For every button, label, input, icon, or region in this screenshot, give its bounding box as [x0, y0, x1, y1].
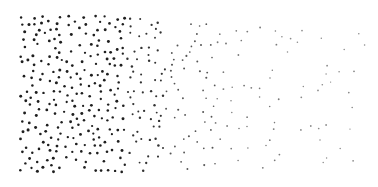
- stipple-dot: [59, 132, 61, 134]
- stipple-dot: [157, 144, 160, 147]
- stipple-dot: [23, 75, 26, 78]
- stipple-dot: [142, 170, 144, 172]
- stipple-dot: [36, 161, 39, 164]
- stipple-dot: [83, 119, 86, 122]
- stipple-dot: [211, 116, 213, 118]
- stipple-dot: [122, 53, 124, 55]
- stipple-dot: [189, 51, 191, 53]
- stipple-dot: [54, 112, 57, 115]
- stipple-dot: [123, 17, 126, 20]
- stipple-dot: [321, 37, 322, 38]
- stipple-dot: [75, 143, 78, 146]
- stipple-dot: [93, 115, 96, 118]
- stipple-dot: [222, 88, 224, 90]
- stipple-dot: [29, 103, 31, 105]
- stipple-dot: [128, 152, 130, 154]
- stipple-dot: [211, 57, 213, 59]
- stipple-dot: [140, 81, 142, 83]
- stipple-dot: [147, 54, 149, 56]
- stipple-dot: [24, 162, 26, 164]
- stipple-dot: [190, 23, 192, 25]
- stipple-dot: [275, 30, 277, 32]
- stipple-dot: [226, 125, 228, 127]
- stipple-dot: [75, 92, 77, 94]
- stipple-dot: [109, 63, 111, 65]
- stipple-dot: [91, 125, 93, 127]
- stipple-dot: [99, 21, 101, 23]
- stipple-dot: [214, 85, 216, 87]
- stipple-dot: [35, 114, 38, 117]
- stipple-dot: [99, 84, 102, 87]
- stipple-dot: [269, 139, 271, 141]
- stipple-dot: [203, 164, 205, 166]
- stipple-dot: [213, 105, 215, 107]
- stipple-dot: [114, 107, 116, 109]
- stipple-dot: [106, 73, 109, 76]
- stipple-dot: [199, 70, 201, 72]
- stipple-dot: [139, 116, 141, 118]
- stipple-dot: [116, 129, 119, 132]
- stipple-dot: [33, 63, 36, 66]
- stipple-dot: [352, 160, 354, 162]
- stipple-dot: [211, 147, 213, 149]
- stipple-dot: [122, 117, 125, 120]
- stipple-dot: [246, 31, 248, 33]
- stipple-dot: [136, 131, 138, 133]
- stipple-dot: [231, 112, 232, 113]
- stipple-dot: [113, 94, 115, 96]
- stipple-dot: [122, 104, 125, 107]
- stipple-dot: [101, 70, 104, 73]
- stipple-dot: [160, 80, 162, 82]
- stipple-dot: [65, 60, 68, 63]
- stipple-dot: [150, 90, 152, 92]
- stipple-dot: [319, 139, 321, 141]
- stipple-dot: [238, 128, 240, 130]
- stipple-dot: [205, 97, 207, 99]
- stipple-dot: [259, 96, 261, 98]
- stipple-dot: [99, 144, 102, 147]
- stipple-dot: [246, 126, 248, 128]
- stipple-dot: [107, 109, 110, 112]
- stipple-dot: [186, 168, 188, 170]
- stipple-dot: [177, 45, 179, 47]
- stipple-dot: [154, 138, 156, 140]
- stipple-dot: [72, 137, 74, 139]
- stipple-dot: [148, 60, 150, 62]
- stipple-dot: [139, 18, 141, 20]
- stipple-dot: [114, 26, 116, 28]
- stipple-dot: [155, 28, 157, 30]
- stipple-dot: [80, 150, 83, 153]
- stipple-dot: [188, 135, 190, 137]
- stipple-dot: [156, 21, 158, 23]
- stipple-dot: [28, 122, 31, 125]
- stipple-dot: [88, 109, 91, 112]
- stipple-dot: [63, 85, 66, 88]
- stipple-dot: [21, 60, 24, 63]
- stipple-dot: [98, 39, 101, 42]
- stipple-dot: [109, 51, 112, 54]
- stipple-dot: [149, 139, 151, 141]
- stipple-dot: [119, 30, 122, 33]
- stipple-dot: [150, 24, 152, 26]
- stipple-dot: [39, 78, 42, 81]
- stipple-dot: [65, 156, 67, 158]
- stipple-dot: [111, 149, 114, 152]
- stipple-dot: [71, 99, 73, 101]
- stipple-dot: [160, 115, 162, 117]
- stipple-dot: [171, 76, 173, 78]
- stipple-dot: [230, 100, 232, 102]
- stipple-dot: [82, 16, 85, 19]
- stipple-dot: [290, 38, 292, 40]
- stipple-dot: [237, 54, 239, 56]
- stipple-dot: [126, 57, 128, 59]
- stipple-dot: [116, 18, 119, 21]
- stipple-dot: [114, 170, 116, 172]
- stipple-dot: [21, 120, 23, 122]
- stipple-dot: [46, 159, 49, 162]
- stipple-dot: [223, 71, 225, 73]
- stipple-dot: [27, 128, 30, 131]
- stipple-dot: [150, 118, 152, 120]
- stipple-dot: [199, 25, 201, 27]
- stipple-dot: [44, 32, 46, 34]
- stipple-dot: [27, 23, 30, 26]
